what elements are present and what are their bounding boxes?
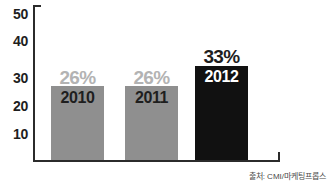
bar-chart-figure: 50 40 30 20 10 26% 2010 26% 2011 33% 201… xyxy=(0,0,330,186)
bar-2011-category-label: 2011 xyxy=(135,90,168,106)
bar-2012-value-label: 33% xyxy=(203,47,239,66)
plot-area: 26% 2010 26% 2011 33% 2012 xyxy=(35,0,330,186)
bar-2010: 26% 2010 xyxy=(51,86,104,161)
bar-2010-value-label: 26% xyxy=(59,68,95,87)
bar-2012: 33% 2012 xyxy=(195,66,248,161)
bar-2011: 26% 2011 xyxy=(125,86,178,161)
y-tick-label-10: 10 xyxy=(4,127,28,141)
y-tick-label-50: 50 xyxy=(4,7,28,21)
bar-2012-category-label: 2012 xyxy=(205,69,239,85)
x-axis-end-tick xyxy=(278,152,280,162)
y-tick-label-30: 30 xyxy=(4,71,28,85)
source-note: 출처: CMI/마케팅프롭스 xyxy=(249,170,326,181)
x-axis-line xyxy=(33,160,280,162)
bar-2011-value-label: 26% xyxy=(133,68,169,87)
bar-2010-category-label: 2010 xyxy=(61,90,95,106)
y-tick-label-20: 20 xyxy=(4,99,28,113)
y-tick-label-40: 40 xyxy=(4,34,28,48)
